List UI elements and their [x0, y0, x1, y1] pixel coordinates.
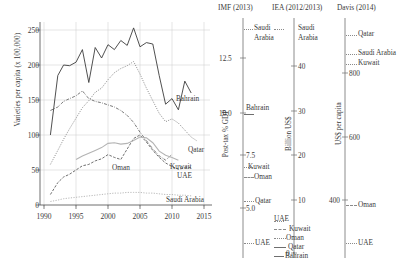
imf-tick-5-0: 5.0	[246, 205, 255, 212]
series-label-uae: UAE	[177, 172, 192, 179]
davis-marker-qatar	[346, 35, 357, 36]
davis-country-saudi-arabia: Saudi Arabia	[358, 49, 396, 56]
davis-marker-oman	[346, 205, 357, 206]
imf-marker-saudi-arabia	[244, 29, 253, 30]
imf-country-saudi-arabia-line2: Arabia	[254, 34, 274, 41]
iea-panel: IEA (2012/2013) Billion US$ 40 30 20 10 …	[272, 0, 338, 263]
davis-panel: Davis (2014) US$ per capita 800 600 400 …	[333, 0, 399, 263]
imf-tick-7-5: 7.5	[246, 152, 255, 159]
iea-tick-40: 40	[298, 63, 305, 70]
iea-marker-kuwait	[274, 229, 286, 230]
series-label-kuwait: Kuwait	[170, 163, 191, 170]
davis-axis-label: US$ per capita	[336, 95, 343, 153]
imf-panel: IMF (2013) Post-tax % GDP 12.5 10.0 7.5 …	[215, 0, 277, 263]
iea-marker-oman	[274, 238, 286, 239]
iea-country-saudi-arabia-line2: Arabia	[298, 34, 318, 41]
imf-country-qatar: Qatar	[255, 197, 271, 204]
imf-country-bahrain: Bahrain	[246, 104, 269, 111]
figure-root: Varieties per capita (x 100,000) 250 200…	[0, 0, 399, 263]
iea-country-oman: Oman	[286, 234, 304, 241]
iea-country-qatar: Qatar	[288, 243, 304, 250]
series-label-qatar: Qatar	[188, 146, 204, 153]
iea-marker-bahrain	[274, 256, 284, 257]
iea-tick-30: 30	[298, 108, 305, 115]
imf-tick-12-5: 12.5	[219, 55, 232, 62]
plot-area	[0, 0, 215, 263]
iea-marker-qatar	[274, 247, 286, 248]
series-paths	[50, 28, 197, 202]
imf-country-oman: Oman	[254, 173, 272, 180]
davis-country-kuwait: Kuwait	[358, 59, 379, 66]
series-label-saudi-arabia: Saudi Arabia	[166, 196, 204, 203]
iea-country-uae: UAE	[274, 215, 289, 222]
davis-country-oman: Oman	[358, 201, 376, 208]
davis-marker-kuwait	[346, 64, 357, 65]
iea-country-bahrain: Bahrain	[285, 252, 308, 259]
imf-country-uae: UAE	[255, 239, 270, 246]
main-timeseries-chart: Varieties per capita (x 100,000) 250 200…	[0, 0, 215, 263]
iea-country-kuwait: Kuwait	[289, 225, 310, 232]
iea-axis-label: Billion US$	[286, 108, 293, 160]
series-label-oman: Oman	[112, 164, 130, 171]
davis-tick-600: 600	[349, 134, 360, 141]
series-bahrain	[50, 28, 191, 135]
imf-country-kuwait: Kuwait	[248, 163, 269, 170]
iea-tick-20: 20	[298, 152, 305, 159]
series-kuwait	[50, 91, 172, 160]
davis-marker-saudi-arabia	[346, 54, 357, 55]
davis-tick-400: 400	[329, 197, 340, 204]
davis-marker-uae	[346, 243, 357, 244]
axis-tick-marks	[36, 30, 204, 209]
imf-marker-qatar	[244, 201, 254, 202]
iea-tick-10: 10	[298, 197, 305, 204]
iea-marker-saudi-arabia	[274, 29, 284, 30]
iea-country-saudi-arabia-line1: Saudi	[298, 24, 315, 31]
imf-country-saudi-arabia-line1: Saudi	[254, 24, 271, 31]
davis-country-qatar: Qatar	[358, 30, 374, 37]
series-qatar	[50, 62, 197, 165]
imf-marker-uae	[244, 243, 254, 244]
davis-tick-800: 800	[349, 70, 360, 77]
imf-tick-10-0: 10.0	[219, 110, 232, 117]
davis-country-uae: UAE	[358, 239, 373, 246]
imf-marker-bahrain	[244, 114, 254, 115]
imf-marker-oman	[244, 177, 254, 178]
series-label-bahrain: Bahrain	[176, 95, 199, 102]
